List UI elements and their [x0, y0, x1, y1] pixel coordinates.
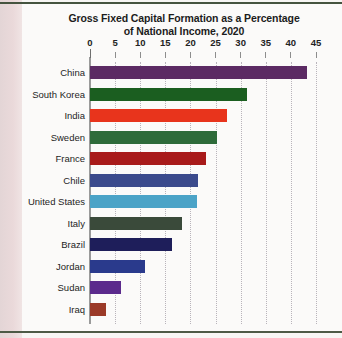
x-axis-tick: [140, 52, 141, 58]
x-axis-tick-label: 10: [135, 37, 146, 48]
x-axis-tick: [190, 52, 191, 58]
x-axis-tick-label: 30: [235, 37, 246, 48]
category-label: Brazil: [61, 236, 90, 253]
category-label: China: [60, 64, 90, 81]
x-axis-tick: [90, 49, 91, 58]
category-label: Sweden: [51, 129, 90, 146]
bar: [90, 303, 106, 316]
bar: [90, 217, 182, 230]
chart-row: Brazil: [90, 234, 316, 256]
x-axis-tick: [240, 52, 241, 58]
chart-row: France: [90, 148, 316, 170]
bar: [90, 152, 206, 165]
chart-row: Sudan: [90, 277, 316, 299]
page-bottom-rule: [0, 331, 342, 333]
x-axis-tick-label: 25: [210, 37, 221, 48]
page-left-margin: [0, 0, 22, 338]
bar: [90, 88, 247, 101]
x-axis-tick: [265, 52, 266, 58]
x-axis-tick-label: 45: [311, 37, 322, 48]
x-axis-tick: [290, 52, 291, 58]
bar: [90, 66, 307, 79]
chart-title-line-1: Gross Fixed Capital Formation as a Perce…: [36, 12, 332, 25]
category-label: South Korea: [32, 86, 90, 103]
bar: [90, 281, 121, 294]
x-axis-tick-label: 0: [87, 37, 92, 48]
x-axis-tick: [115, 52, 116, 58]
category-label: Iraq: [69, 301, 90, 318]
chart-row: United States: [90, 191, 316, 213]
category-label: Chile: [63, 172, 90, 189]
chart-row: China: [90, 62, 316, 84]
x-axis-tick-label: 5: [112, 37, 117, 48]
category-label: United States: [28, 193, 90, 210]
x-axis-tick-label: 40: [286, 37, 297, 48]
category-label: France: [55, 150, 90, 167]
category-label: Italy: [68, 215, 90, 232]
bar: [90, 238, 172, 251]
x-axis-tick: [316, 52, 317, 58]
bar: [90, 131, 217, 144]
chart-title: Gross Fixed Capital Formation as a Perce…: [36, 12, 332, 38]
bar: [90, 195, 197, 208]
chart-row: Sweden: [90, 127, 316, 149]
bar: [90, 174, 198, 187]
bar-chart: Gross Fixed Capital Formation as a Perce…: [22, 6, 342, 328]
gridline: [316, 62, 317, 324]
bar: [90, 109, 227, 122]
plot-area: 051015202530354045ChinaSouth KoreaIndiaS…: [90, 62, 316, 324]
x-axis-tick-label: 20: [185, 37, 196, 48]
chart-row: Chile: [90, 170, 316, 192]
x-axis-tick-label: 15: [160, 37, 171, 48]
chart-row: Jordan: [90, 256, 316, 278]
chart-page: Gross Fixed Capital Formation as a Perce…: [0, 0, 342, 338]
chart-row: Italy: [90, 213, 316, 235]
x-axis-tick-label: 35: [260, 37, 271, 48]
bar: [90, 260, 145, 273]
category-label: India: [64, 107, 90, 124]
chart-row: South Korea: [90, 84, 316, 106]
category-label: Jordan: [56, 258, 90, 275]
x-axis-tick: [165, 52, 166, 58]
x-axis-tick: [215, 52, 216, 58]
chart-row: Iraq: [90, 299, 316, 321]
chart-row: India: [90, 105, 316, 127]
category-label: Sudan: [58, 279, 90, 296]
